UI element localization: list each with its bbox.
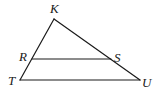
label-t: T [8, 73, 16, 88]
label-r: R [18, 49, 27, 64]
triangle-diagram: K R S T U [0, 0, 162, 96]
label-u: U [142, 75, 153, 90]
label-s: S [114, 50, 121, 65]
label-k: K [49, 1, 60, 16]
segment-ku [54, 19, 140, 80]
